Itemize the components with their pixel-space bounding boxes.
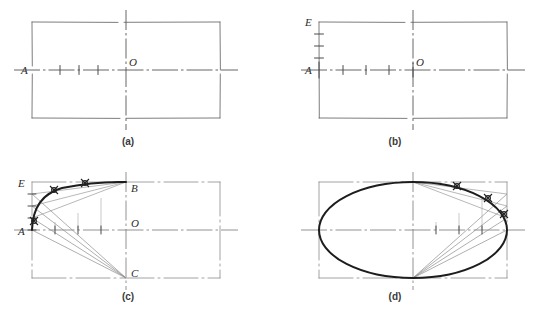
ellipse-construction-figure: A O (a) E A O (b) [0,0,534,320]
panel-c-point-label-O: O [131,217,139,229]
panel-b-point-label-E: E [304,16,312,28]
panel-c-label: (c) [122,291,134,302]
panel-a-point-label-O: O [129,56,137,68]
panel-c-point-label-A: A [17,225,25,237]
panel-c-point-label-B: B [131,182,138,194]
figure-background [0,0,534,320]
panel-a-point-label-A: A [20,64,28,76]
panel-d-label: (d) [389,291,402,302]
panel-b-point-label-A: A [304,64,312,76]
panel-c-point-label-E: E [17,177,25,189]
panel-a-label: (a) [122,136,134,147]
panel-c-point-label-C: C [131,267,139,279]
panel-b-label: (b) [389,136,402,147]
panel-b-point-label-O: O [416,56,424,68]
